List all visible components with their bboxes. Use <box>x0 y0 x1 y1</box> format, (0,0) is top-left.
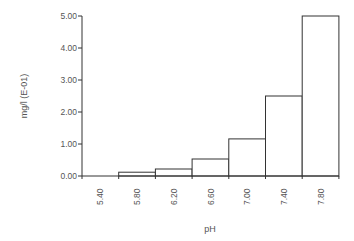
x-tick-label: 6.20 <box>169 188 179 205</box>
x-tick-label: 5.80 <box>132 188 142 205</box>
x-tick-label: 7.80 <box>316 188 326 205</box>
y-tick-label: 4.00 <box>60 43 77 53</box>
bar-5.80 <box>119 172 156 176</box>
y-tick-label: 2.00 <box>60 107 77 117</box>
histogram-chart: 0.001.002.003.004.005.00 5.405.806.206.6… <box>0 0 354 241</box>
y-tick-label: 3.00 <box>60 75 77 85</box>
y-tick-label: 1.00 <box>60 139 77 149</box>
bar-7.80 <box>302 16 339 176</box>
bar-7.40 <box>266 96 303 176</box>
bars-group <box>119 16 339 176</box>
y-tick-label: 5.00 <box>60 11 77 21</box>
x-tick-label: 7.00 <box>242 188 252 205</box>
bar-6.20 <box>155 169 192 176</box>
bar-7.00 <box>229 139 266 176</box>
y-tick-label: 0.00 <box>60 171 77 181</box>
x-tick-label: 6.60 <box>206 188 216 205</box>
y-axis: 0.001.002.003.004.005.00 <box>60 11 82 181</box>
x-axis: 5.405.806.206.607.007.407.80 <box>82 176 339 205</box>
y-axis-title: mg/l (E-01) <box>19 74 29 119</box>
x-axis-title: pH <box>204 224 216 234</box>
x-tick-label: 7.40 <box>279 188 289 205</box>
bar-6.60 <box>192 159 229 176</box>
x-tick-label: 5.40 <box>95 188 105 205</box>
